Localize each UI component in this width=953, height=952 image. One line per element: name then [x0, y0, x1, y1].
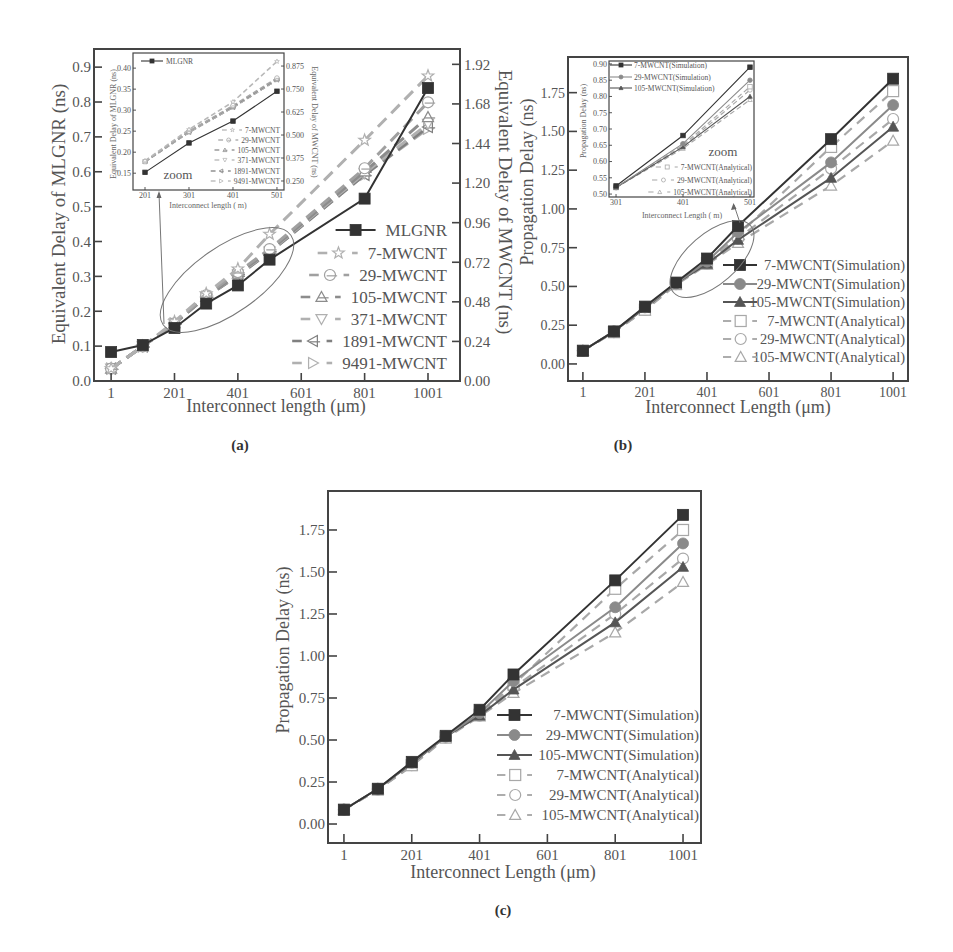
zoom-connector-line — [159, 193, 164, 324]
legend-label: 29-MWCNT(Simulation) — [757, 276, 905, 293]
legend-entry: 1891-MWCNT — [292, 332, 447, 351]
legend-entry: 7-MWCNT(Analytical) — [497, 767, 699, 784]
data-point-marker — [748, 78, 753, 83]
data-point-marker — [826, 157, 837, 168]
x-tick-label: 401 — [227, 191, 239, 200]
legend-marker — [333, 247, 345, 258]
data-point-marker — [201, 298, 212, 309]
y-tick-label: 0.7 — [72, 129, 91, 145]
legend-entry: 29-MWCNT(Analytical) — [497, 787, 699, 804]
y-tick-label: 0.25 — [541, 318, 566, 333]
y-tick-label: 0.15 — [117, 169, 131, 178]
y-tick-label: 0.35 — [117, 85, 131, 94]
data-point-marker — [508, 669, 519, 680]
legend-label: 7-MWCNT — [368, 244, 448, 263]
y2-tick-label: 1.68 — [464, 96, 490, 112]
y-tick-label: 1.00 — [541, 202, 566, 217]
y-tick-label: 0.9 — [72, 59, 91, 75]
legend-label: 105-MWCNT(Simulation) — [538, 747, 699, 764]
data-point-marker — [670, 277, 681, 288]
y2-tick-label: 0.250 — [286, 177, 304, 186]
data-point-marker — [422, 97, 433, 108]
y2-tick-label: 0.500 — [286, 131, 304, 140]
chart-a-xlabel: Interconnect length (μm) — [186, 396, 366, 417]
data-point-marker — [614, 184, 619, 189]
x-tick-label: 301 — [610, 198, 622, 207]
data-point-marker — [748, 84, 753, 89]
chart-a-inset-xlabel: Interconnect length ( m) — [169, 201, 247, 210]
zoom-arrow-icon — [157, 191, 162, 198]
legend-marker — [735, 279, 746, 290]
legend-entry: 7-MWCNT(Simulation) — [723, 257, 905, 274]
x-tick-label: 1 — [579, 385, 586, 400]
y-tick-label: 0.90 — [593, 60, 607, 69]
y-tick-label: 1.25 — [541, 163, 566, 178]
y2-tick-label: 0.875 — [286, 62, 304, 71]
chart-c: 120140160180110010.000.250.500.751.001.2… — [299, 491, 701, 863]
data-point-marker — [143, 170, 148, 175]
y-tick-label: 0.30 — [117, 106, 131, 115]
y-tick-label: 1.50 — [541, 124, 566, 139]
x-tick-label: 501 — [744, 198, 756, 207]
y2-tick-label: 0.72 — [464, 255, 490, 271]
legend-label: 105-MWCNT(Simulation) — [634, 84, 715, 93]
chart-c-xlabel: Interconnect Length (μm) — [410, 862, 596, 883]
legend-entry: 371-MWCNT — [301, 310, 448, 329]
x-tick-label: 501 — [271, 191, 283, 200]
legend-marker — [661, 178, 665, 182]
data-point-marker — [608, 326, 619, 337]
legend-entry: 29-MWCNT — [309, 266, 447, 285]
chart-a-y2label: Equivalent Delay of MWCNT (ns) — [494, 70, 516, 335]
x-tick-label: 401 — [468, 847, 491, 863]
legend-label: 371-MWCNT — [351, 310, 448, 329]
data-point-marker — [406, 756, 417, 767]
legend-entry: 105-MWCNT(Simulation) — [497, 747, 699, 764]
y-tick-label: 0.6 — [72, 164, 91, 180]
chart-b-inset-ylabel: Propagation Delay (ns) — [579, 84, 588, 159]
x-tick-label: 201 — [139, 191, 151, 200]
data-point-marker — [338, 804, 349, 815]
legend-label: 29-MWCNT(Simulation) — [546, 727, 699, 744]
legend-label: MLGNR — [166, 57, 193, 66]
data-point-marker — [422, 112, 433, 122]
data-point-marker — [610, 602, 621, 613]
a-legend: MLGNR7-MWCNT29-MWCNT105-MWCNT371-MWCNT18… — [292, 221, 447, 373]
legend-marker — [619, 63, 623, 67]
legend-marker — [309, 358, 319, 369]
y2-tick-label: 1.44 — [464, 136, 491, 152]
y-tick-label: 0.70 — [593, 125, 607, 134]
chart-c-ylabel: Propagation Delay (ns) — [273, 567, 294, 734]
data-point-marker — [678, 524, 689, 535]
legend-label: 105-MWCNT — [238, 146, 281, 155]
y-tick-label: 1.50 — [299, 564, 325, 580]
series-line — [344, 515, 683, 810]
y-tick-label: 0.4 — [72, 234, 91, 250]
legend-label: 29-MWCNT — [359, 266, 447, 285]
y2-tick-label: 0.375 — [286, 154, 304, 163]
y-tick-label: 1.25 — [299, 606, 325, 622]
x-tick-label: 1 — [340, 847, 348, 863]
y-tick-label: 0.5 — [72, 199, 91, 215]
legend-marker — [316, 315, 327, 325]
legend-entry: 7-MWCNT(Analytical) — [723, 313, 905, 330]
legend-marker — [619, 75, 623, 79]
legend-entry: 105-MWCNT(Simulation) — [723, 294, 905, 311]
c-legend: 7-MWCNT(Simulation)29-MWCNT(Simulation)1… — [497, 707, 699, 824]
legend-entry: 29-MWCNT(Simulation) — [723, 276, 905, 293]
figure-page: 120140160180110010.00.10.20.30.40.50.60.… — [0, 0, 953, 952]
y2-tick-label: 0.00 — [464, 373, 490, 389]
legend-entry: 29-MWCNT(Simulation) — [497, 727, 699, 744]
x-tick-label: 301 — [183, 191, 195, 200]
legend-marker — [316, 292, 327, 302]
data-point-marker — [888, 86, 899, 97]
y-tick-label: 0.25 — [117, 127, 131, 136]
x-tick-label: 1001 — [879, 385, 907, 400]
y-tick-label: 0.75 — [299, 690, 325, 706]
data-point-marker — [678, 577, 689, 587]
legend-marker — [324, 270, 335, 281]
chart-b-inset: 3014015010.500.550.600.650.700.750.800.8… — [593, 60, 756, 207]
legend-label: 7-MWCNT — [245, 126, 280, 135]
data-point-marker — [440, 730, 451, 741]
data-point-marker — [474, 704, 485, 715]
y-tick-label: 0.55 — [593, 174, 607, 183]
